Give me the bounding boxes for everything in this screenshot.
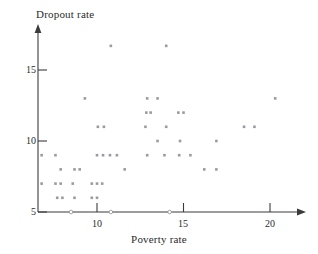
data-point bbox=[215, 140, 218, 143]
data-point bbox=[182, 111, 185, 114]
axis-open-mark bbox=[168, 210, 172, 214]
data-point bbox=[59, 182, 62, 185]
data-point bbox=[61, 197, 64, 200]
axis-open-mark bbox=[109, 210, 113, 214]
data-point bbox=[56, 197, 59, 200]
data-point bbox=[96, 197, 99, 200]
data-point bbox=[243, 126, 246, 129]
data-point bbox=[102, 154, 105, 157]
data-point bbox=[274, 97, 277, 100]
data-point bbox=[40, 154, 43, 157]
data-point bbox=[253, 126, 256, 129]
y-axis-arrow-icon bbox=[35, 24, 42, 33]
data-point bbox=[144, 126, 147, 129]
data-point bbox=[145, 111, 148, 114]
data-point bbox=[40, 182, 43, 185]
data-point bbox=[109, 154, 112, 157]
data-point bbox=[215, 168, 218, 171]
plot-area bbox=[0, 0, 318, 254]
data-point bbox=[91, 182, 94, 185]
scatter-plot-figure: Dropout rate Poverty rate 15 10 5 10 15 … bbox=[0, 0, 318, 254]
data-point bbox=[54, 154, 57, 157]
data-point bbox=[156, 97, 159, 100]
data-point bbox=[156, 140, 159, 143]
data-point bbox=[110, 45, 113, 48]
data-point bbox=[203, 168, 206, 171]
data-point bbox=[101, 182, 104, 185]
data-point bbox=[73, 197, 76, 200]
data-point bbox=[78, 168, 81, 171]
data-point bbox=[116, 154, 119, 157]
data-point bbox=[149, 111, 152, 114]
data-point bbox=[54, 182, 57, 185]
data-point bbox=[146, 97, 149, 100]
data-point bbox=[146, 154, 149, 157]
axes bbox=[35, 24, 306, 215]
axis-open-mark bbox=[69, 210, 73, 214]
data-point bbox=[178, 154, 181, 157]
data-point bbox=[96, 154, 99, 157]
data-point bbox=[59, 168, 62, 171]
data-point bbox=[103, 126, 106, 129]
data-point bbox=[84, 97, 87, 100]
axis-ticks bbox=[38, 70, 270, 212]
x-axis-arrow-icon bbox=[297, 209, 306, 216]
data-point bbox=[165, 45, 168, 48]
data-point bbox=[96, 182, 99, 185]
data-point bbox=[71, 182, 74, 185]
data-point bbox=[123, 168, 126, 171]
data-point bbox=[165, 126, 168, 129]
data-point bbox=[179, 140, 182, 143]
data-point bbox=[91, 197, 94, 200]
data-point bbox=[177, 111, 180, 114]
data-point bbox=[163, 154, 166, 157]
data-points bbox=[40, 45, 276, 200]
data-point bbox=[189, 154, 192, 157]
data-point bbox=[97, 126, 100, 129]
data-point bbox=[73, 168, 76, 171]
